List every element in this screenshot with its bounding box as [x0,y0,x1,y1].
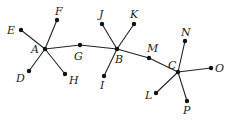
edge-B-J [102,24,117,49]
edge-A-G [45,45,80,49]
node-label-C: C [168,59,177,72]
node-label-G: G [74,50,83,63]
node-F [55,18,59,22]
graph-diagram: ABCDEFGHIJKLMNOP [0,0,235,121]
node-label-F: F [54,5,63,18]
node-I [102,74,106,78]
node-J [100,22,104,26]
edge-C-L [156,72,178,93]
node-label-O: O [215,62,224,75]
edge-C-N [178,41,185,72]
node-B [115,47,119,51]
node-label-L: L [144,89,152,102]
labels-group: ABCDEFGHIJKLMNOP [6,5,224,117]
graph-svg: ABCDEFGHIJKLMNOP [0,0,235,121]
edge-A-H [45,49,65,74]
node-label-B: B [114,53,123,66]
node-label-H: H [68,74,79,87]
node-E [19,28,23,32]
edge-G-B [80,45,117,49]
edge-C-P [178,72,187,101]
node-label-A: A [30,43,39,56]
node-A [43,47,47,51]
node-label-N: N [180,26,191,39]
node-C [176,70,180,74]
edge-C-O [178,68,211,72]
node-H [63,72,67,76]
node-L [154,91,158,95]
node-label-I: I [99,79,105,92]
node-label-J: J [97,8,104,21]
node-N [183,39,187,43]
node-label-E: E [6,24,15,37]
node-M [147,56,151,60]
node-P [185,99,189,103]
node-K [132,22,136,26]
node-O [209,66,213,70]
node-label-K: K [129,8,139,21]
edge-A-F [45,20,57,49]
edge-B-K [117,24,134,49]
node-label-P: P [182,104,191,117]
node-G [78,43,82,47]
node-D [27,69,31,73]
node-label-D: D [15,72,25,85]
node-label-M: M [146,42,159,55]
